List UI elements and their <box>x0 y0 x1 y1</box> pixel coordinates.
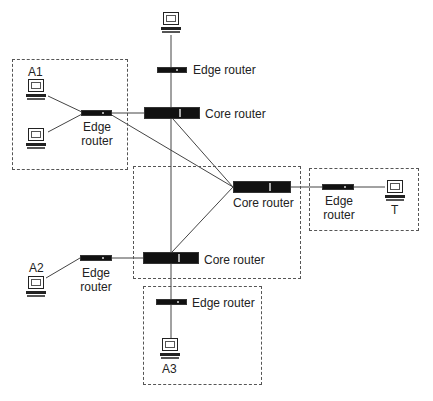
host-computer-icon <box>160 338 180 360</box>
network-diagram: Edge router Core router A1 Edge router C… <box>0 0 433 401</box>
connection-line <box>0 0 433 401</box>
host-label-a3: A3 <box>162 362 177 376</box>
